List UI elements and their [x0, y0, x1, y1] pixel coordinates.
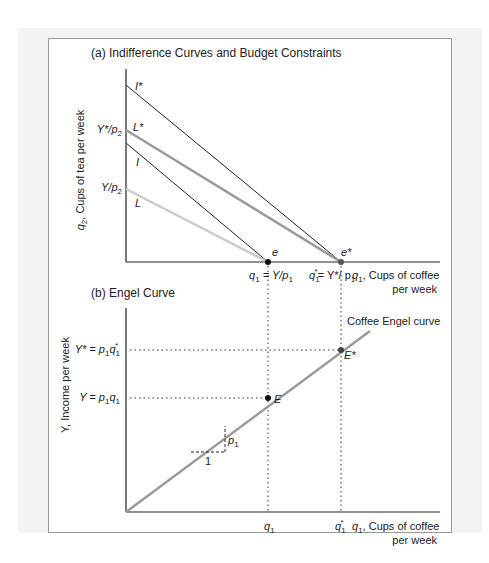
- label-e: e: [272, 246, 278, 258]
- panel-a-title: (a) Indifference Curves and Budget Const…: [91, 46, 342, 60]
- y-tick-y-star-equals-p1-q1-star: Y* = p1q1*: [75, 341, 121, 358]
- point-e: [265, 259, 271, 265]
- panel-a-y-axis-label: q2, Cups of tea per week: [74, 109, 89, 230]
- panel-a-x-axis-label: q1, Cups of coffee: [352, 269, 439, 284]
- label-l: L: [135, 197, 141, 209]
- budget-line-l-star: [126, 130, 341, 262]
- budget-line-l: [126, 189, 268, 262]
- point-E: [265, 395, 271, 401]
- indifference-curve-i-star: [126, 85, 341, 262]
- slope-rise-label: p1: [227, 434, 239, 449]
- label-l-star: L*: [133, 121, 144, 133]
- economics-figure: (a) Indifference Curves and Budget Const…: [0, 0, 489, 563]
- x-tick-q1-equals-y-over-p1: q1 = Y/p1: [249, 269, 293, 284]
- label-E: E: [274, 393, 282, 405]
- panel-b-x-axis-label-line2: per week: [392, 534, 437, 546]
- panel-b-y-axis-label: Y, Income per week: [59, 337, 71, 433]
- x-tick-q1-star: q1*: [335, 518, 346, 535]
- coffee-engel-curve: [126, 331, 370, 512]
- y-tick-y-star-over-p2: Y*/p2: [97, 123, 123, 138]
- point-e-star: [338, 259, 344, 265]
- label-E-star: E*: [344, 349, 356, 361]
- panel-b-title: (b) Engel Curve: [91, 286, 175, 300]
- label-i: I: [136, 156, 139, 168]
- slope-run-label: 1: [205, 455, 211, 467]
- engel-curve-label: Coffee Engel curve: [347, 315, 440, 327]
- y-tick-y-over-p2: Y/p2: [101, 181, 123, 196]
- x-tick-q1: q1: [264, 520, 275, 535]
- panel-a-x-axis-label-line2: per week: [392, 283, 437, 295]
- label-e-star: e*: [341, 246, 352, 258]
- label-i-star: I*: [135, 80, 143, 92]
- indifference-curve-i: [126, 143, 268, 262]
- x-tick-q1-star-equals-y-star-over-p1: q1*= Y*/ p1: [309, 267, 356, 284]
- panel-b-x-axis-label: q1, Cups of coffee: [352, 520, 439, 535]
- y-tick-y-equals-p1-q1: Y = p1q1: [79, 391, 120, 406]
